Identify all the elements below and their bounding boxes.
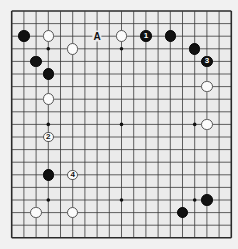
star-point — [120, 198, 124, 202]
black-stone — [165, 30, 177, 42]
move-number: 3 — [205, 57, 209, 65]
white-stone — [30, 207, 42, 219]
white-stone — [67, 43, 79, 55]
white-stone — [201, 119, 213, 131]
white-stone — [116, 30, 128, 42]
star-point — [193, 123, 197, 127]
move-number: 2 — [46, 133, 50, 141]
go-board-diagram: 1324 A — [0, 0, 238, 249]
star-point — [47, 47, 51, 51]
white-stone — [201, 81, 213, 93]
star-point — [193, 198, 197, 202]
white-stone-move-4: 4 — [67, 170, 78, 181]
white-stone — [43, 93, 55, 105]
move-number: 4 — [70, 171, 74, 179]
star-point — [120, 47, 124, 51]
black-stone-move-1: 1 — [140, 30, 152, 42]
black-stone — [18, 30, 30, 42]
white-stone-move-2: 2 — [43, 132, 54, 143]
black-stone — [43, 169, 55, 181]
black-stone — [43, 68, 55, 80]
star-point — [120, 123, 124, 127]
move-number: 1 — [144, 32, 148, 40]
black-stone — [201, 194, 213, 206]
black-stone-move-3: 3 — [201, 56, 213, 68]
point-label-a: A — [92, 31, 101, 42]
star-point — [47, 198, 51, 202]
white-stone — [43, 30, 55, 42]
star-point — [47, 123, 51, 127]
black-stone — [30, 56, 42, 68]
black-stone — [189, 43, 201, 55]
